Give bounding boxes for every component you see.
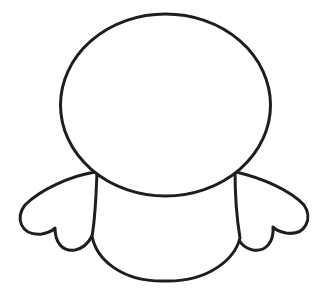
right-wing — [236, 172, 308, 250]
left-wing — [20, 172, 95, 250]
head — [61, 14, 271, 196]
character-drawing — [0, 0, 326, 299]
